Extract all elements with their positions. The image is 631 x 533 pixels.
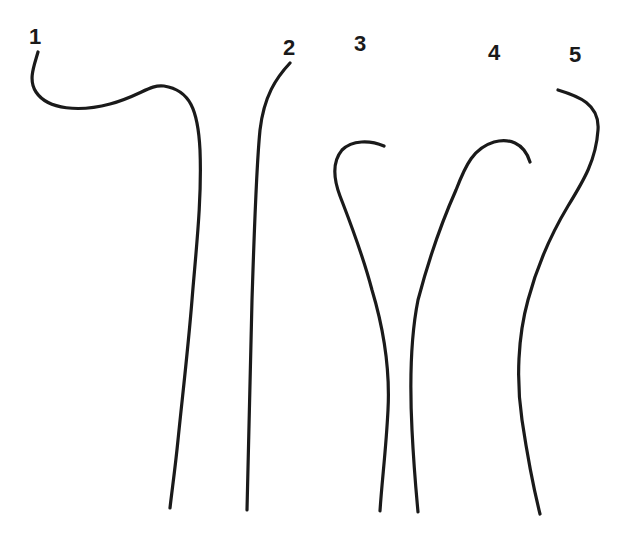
curves-canvas (0, 0, 631, 533)
curve-5 (519, 90, 599, 514)
curve-4 (411, 141, 530, 512)
curve-1 (32, 52, 200, 508)
curve-3 (335, 142, 388, 511)
curve-2 (247, 63, 290, 510)
